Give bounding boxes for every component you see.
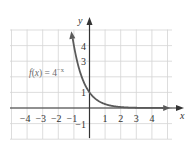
x-tick-label: 2: [118, 113, 123, 124]
x-tick-label: 4: [149, 113, 154, 124]
grid-lines: [10, 30, 172, 140]
x-tick-label: −2: [51, 113, 62, 124]
function-curve: [73, 38, 164, 108]
x-tick-label: −3: [35, 113, 46, 124]
x-tick-label: −4: [20, 113, 31, 124]
tick-labels: −4−3−2−11234−1134: [20, 41, 155, 130]
graph-plot: −4−3−2−11234−1134 x y f(x) = 4−x: [0, 0, 194, 148]
y-tick-label: −1: [75, 119, 86, 130]
y-axis-arrow-icon: [87, 17, 93, 25]
x-tick-label: 1: [103, 113, 108, 124]
y-axis-label: y: [77, 15, 83, 26]
x-axis-label: x: [179, 110, 185, 121]
x-tick-label: 3: [134, 113, 139, 124]
y-tick-label: 3: [81, 56, 86, 67]
y-tick-label: 1: [81, 87, 86, 98]
curve-arrow-right-icon: [163, 105, 170, 111]
function-label-exponent: −x: [57, 66, 65, 73]
curve-arrow-left-icon: [69, 31, 75, 39]
y-tick-label: 4: [81, 41, 86, 52]
